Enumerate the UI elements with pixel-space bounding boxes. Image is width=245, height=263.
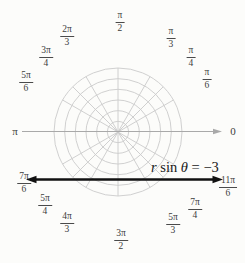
fraction-numerator: 7π (17, 172, 31, 184)
fraction-denominator: 3 (60, 37, 74, 48)
fraction-numerator: 4π (60, 212, 74, 224)
fraction-numerator: π (203, 68, 212, 80)
labels-layer: π2 π3 π4 π6 2π3 3π4 5π6 7π6 5π4 4π3 3π2 … (0, 0, 245, 263)
angle-label-0: 0 (230, 125, 236, 137)
angle-label-pi-2: π2 (116, 11, 125, 33)
angle-label-pi-6: π6 (203, 68, 212, 90)
fraction-denominator: 4 (187, 58, 196, 69)
fraction-numerator: 5π (166, 213, 180, 225)
fraction-numerator: 11π (219, 176, 237, 188)
angle-label-5pi-6: 5π6 (19, 71, 33, 93)
fraction-denominator: 4 (39, 58, 53, 69)
fraction-numerator: π (116, 11, 125, 23)
equation-sin: sin (157, 159, 181, 175)
fraction-numerator: 2π (60, 25, 74, 37)
fraction-denominator: 4 (188, 210, 202, 221)
angle-label-3pi-4: 3π4 (39, 46, 53, 68)
fraction-numerator: π (167, 27, 176, 39)
fraction-numerator: 3π (114, 229, 128, 241)
fraction-denominator: 3 (167, 39, 176, 50)
fraction-denominator: 6 (219, 188, 237, 199)
fraction-numerator: 7π (188, 198, 202, 210)
fraction-numerator: π (187, 46, 196, 58)
angle-label-2pi-3: 2π3 (60, 25, 74, 47)
equation-label: r sin θ = −3 (151, 159, 219, 176)
angle-label-5pi-3: 5π3 (166, 213, 180, 235)
fraction-denominator: 6 (19, 83, 33, 94)
fraction-denominator: 3 (60, 224, 74, 235)
fraction-denominator: 2 (116, 23, 125, 34)
fraction-denominator: 4 (38, 206, 52, 217)
fraction-denominator: 6 (17, 184, 31, 195)
angle-label-5pi-4: 5π4 (38, 194, 52, 216)
equation-rhs: = −3 (188, 159, 219, 175)
equation-theta: θ (181, 159, 188, 175)
angle-label-4pi-3: 4π3 (60, 212, 74, 234)
fraction-numerator: 5π (38, 194, 52, 206)
fraction-denominator: 6 (203, 80, 212, 91)
fraction-denominator: 2 (114, 241, 128, 252)
angle-label-11pi-6: 11π6 (219, 176, 237, 198)
angle-label-pi-4: π4 (187, 46, 196, 68)
angle-label-7pi-4: 7π4 (188, 198, 202, 220)
fraction-numerator: 5π (19, 71, 33, 83)
angle-label-pi-3: π3 (167, 27, 176, 49)
angle-label-pi: π (12, 125, 18, 137)
fraction-denominator: 3 (166, 225, 180, 236)
fraction-numerator: 3π (39, 46, 53, 58)
angle-label-3pi-2: 3π2 (114, 229, 128, 251)
angle-label-7pi-6: 7π6 (17, 172, 31, 194)
